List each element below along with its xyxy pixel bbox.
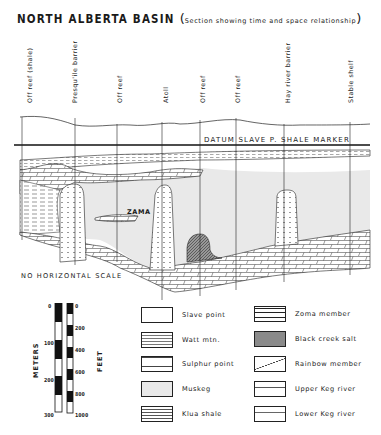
- feet-axis-title: FEET: [96, 350, 104, 372]
- no-horizontal-scale-note: NO HORIZONTAL SCALE: [21, 272, 122, 280]
- meters-tick: 0: [48, 303, 51, 309]
- swatch-blank: [141, 307, 173, 323]
- legend-item-klua-shale: Klua shale: [141, 405, 222, 423]
- legend-item-sulphur-point: Sulphur point: [141, 355, 234, 373]
- feet-tick: 800: [75, 391, 85, 397]
- legend-item-lower-keg-river: Lower Keg river: [254, 405, 355, 423]
- swatch-gray: [141, 381, 173, 397]
- meters-tick: 100: [44, 340, 54, 346]
- legend-item-zoma-member: Zoma member: [254, 305, 351, 323]
- feet-tick: 0: [75, 303, 78, 309]
- swatch-limestone: [141, 356, 173, 372]
- cross-section-diagram: [0, 0, 381, 300]
- scale-bars: [50, 303, 80, 415]
- swatch-brick: [254, 306, 286, 322]
- legend-item-upper-keg-river: Upper Keg river: [254, 380, 356, 398]
- feet-tick: 200: [75, 325, 85, 331]
- legend-item-rainbow-member: Rainbow member: [254, 355, 361, 373]
- feet-tick: 600: [75, 369, 85, 375]
- swatch-diagonal: [254, 356, 286, 372]
- meters-tick: 300: [44, 412, 54, 418]
- swatch-limestone-dash: [254, 381, 286, 397]
- swatch-limestone-dot: [254, 406, 286, 422]
- swatch-crosshatch: [254, 331, 286, 347]
- swatch-shale: [141, 406, 173, 422]
- feet-tick: 400: [75, 347, 85, 353]
- legend-item-watt-mtn: Watt mtn.: [141, 331, 220, 349]
- swatch-dashed: [141, 332, 173, 348]
- meters-axis-title: METERS: [32, 343, 40, 378]
- feet-tick: 1000: [75, 412, 88, 418]
- zama-label: ZAMA: [127, 208, 151, 216]
- legend-item-black-creek-salt: Black creek salt: [254, 330, 357, 348]
- legend-item-slave-point: Slave point: [141, 306, 226, 324]
- datum-label: DATUM SLAVE P. SHALE MARKER: [204, 136, 350, 144]
- legend-item-muskeg: Muskeg: [141, 380, 211, 398]
- meters-tick: 200: [44, 377, 54, 383]
